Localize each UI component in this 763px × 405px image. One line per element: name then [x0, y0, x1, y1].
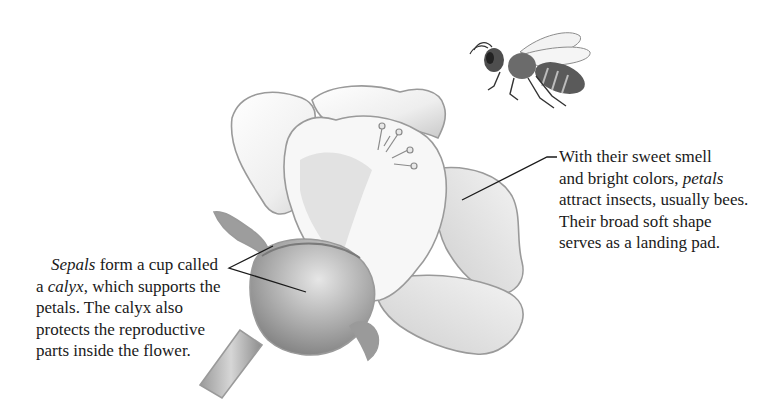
callout-line: attract insects, usually bees. [559, 189, 748, 211]
callout-line: With their sweet smell [559, 146, 748, 168]
callout-line: Sepals form a cup called [36, 254, 221, 276]
sepals-callout: Sepals form a cup called a calyx, which … [36, 254, 221, 362]
term-calyx: calyx [48, 277, 84, 296]
callout-line: petals. The calyx also [36, 297, 221, 319]
callout-line: Their broad soft shape [559, 211, 748, 233]
term-sepals: Sepals [51, 255, 95, 274]
petals-callout: With their sweet smell and bright colors… [559, 146, 748, 254]
callout-line: a calyx, which supports the [36, 276, 221, 298]
term-petals: petals [683, 169, 724, 188]
callout-line: serves as a landing pad. [559, 232, 748, 254]
flower-illustration [200, 86, 523, 398]
callout-line: and bright colors, petals [559, 168, 748, 190]
callout-line: parts inside the flower. [36, 340, 221, 362]
callout-line: protects the reproductive [36, 319, 221, 341]
bee-illustration [470, 33, 590, 108]
